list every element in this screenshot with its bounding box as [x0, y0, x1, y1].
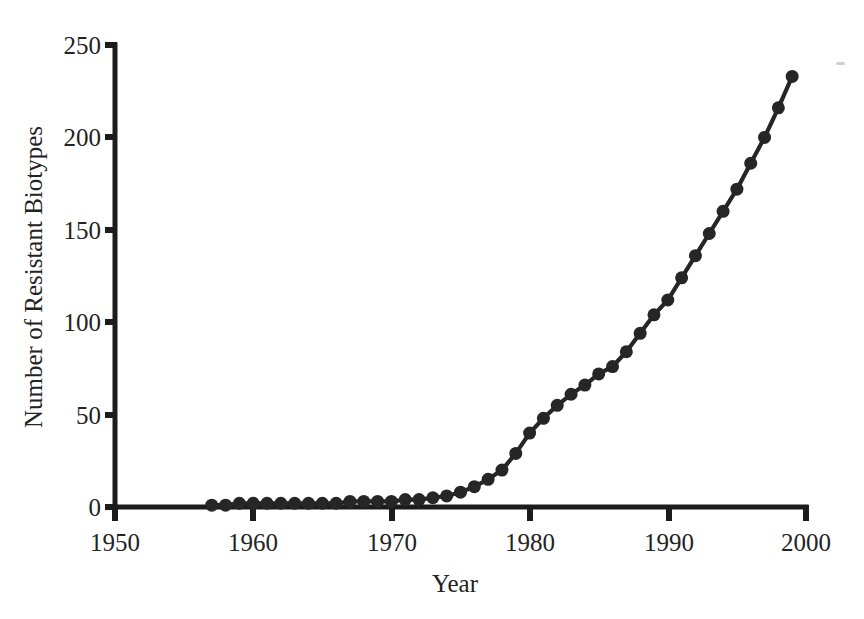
line-chart-canvas: Number of Resistant Biotypes Year 250 20…	[0, 0, 864, 619]
x-tick-label-1960: 1960	[228, 529, 278, 556]
data-point-marker	[316, 497, 329, 510]
data-point-marker	[689, 249, 702, 262]
data-point-marker	[413, 493, 426, 506]
data-point-marker	[717, 205, 730, 218]
data-point-marker	[482, 473, 495, 486]
data-point-marker	[537, 412, 550, 425]
data-point-marker	[703, 227, 716, 240]
data-point-marker	[426, 491, 439, 504]
data-point-marker	[357, 495, 370, 508]
y-tick-label-200: 200	[64, 124, 102, 151]
scan-artifact-speck	[836, 62, 845, 65]
data-point-marker	[371, 495, 384, 508]
data-point-marker	[578, 379, 591, 392]
data-point-marker	[647, 308, 660, 321]
y-axis-title: Number of Resistant Biotypes	[20, 126, 47, 428]
data-point-marker	[744, 157, 757, 170]
data-series-layer	[205, 70, 798, 512]
data-point-marker	[233, 497, 246, 510]
x-tick-label-1980: 1980	[505, 529, 555, 556]
chart-figure: Number of Resistant Biotypes Year 250 20…	[0, 0, 864, 619]
x-tick-label-2000: 2000	[781, 529, 831, 556]
y-tick-label-250: 250	[64, 32, 102, 59]
x-tick-label-1990: 1990	[644, 529, 694, 556]
data-point-marker	[219, 499, 232, 512]
x-axis-tick-labels: 1950 1960 1970 1980 1990 2000	[90, 529, 831, 556]
data-point-marker	[454, 486, 467, 499]
data-point-marker	[592, 367, 605, 380]
data-point-marker	[772, 101, 785, 114]
y-axis-tick-labels: 250 200 150 100 50 0	[64, 32, 102, 521]
data-point-marker	[288, 497, 301, 510]
data-point-marker	[758, 131, 771, 144]
data-point-marker	[385, 495, 398, 508]
data-point-marker	[565, 388, 578, 401]
data-point-marker	[634, 327, 647, 340]
data-point-marker	[730, 183, 743, 196]
data-point-marker	[205, 499, 218, 512]
data-point-marker	[399, 493, 412, 506]
data-point-marker	[786, 70, 799, 83]
data-point-marker	[274, 497, 287, 510]
data-point-marker	[440, 489, 453, 502]
data-point-marker	[261, 497, 274, 510]
data-point-marker	[343, 495, 356, 508]
data-point-marker	[606, 360, 619, 373]
data-point-marker	[523, 427, 536, 440]
data-point-marker	[468, 480, 481, 493]
data-point-marker	[247, 497, 260, 510]
y-tick-label-100: 100	[64, 309, 102, 336]
data-point-marker	[551, 399, 564, 412]
data-point-marker	[495, 464, 508, 477]
data-point-marker	[661, 294, 674, 307]
data-point-marker	[675, 271, 688, 284]
series-line	[212, 76, 792, 505]
data-point-marker	[302, 497, 315, 510]
data-point-marker	[620, 345, 633, 358]
x-tick-label-1970: 1970	[367, 529, 417, 556]
x-tick-label-1950: 1950	[90, 529, 140, 556]
data-point-marker	[509, 447, 522, 460]
y-tick-label-0: 0	[89, 494, 102, 521]
data-point-marker	[330, 497, 343, 510]
y-tick-label-50: 50	[76, 402, 101, 429]
x-axis-title: Year	[432, 570, 479, 597]
y-tick-label-150: 150	[64, 217, 102, 244]
